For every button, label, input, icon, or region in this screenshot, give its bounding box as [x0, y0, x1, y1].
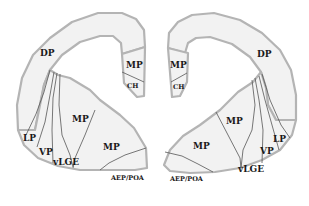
right-label-ch: CH: [173, 83, 184, 91]
left-label-mp-mid: MP: [72, 114, 89, 124]
left-label-mp-top: MP: [126, 60, 143, 70]
right-label-mp-lower: MP: [193, 141, 210, 151]
left-label-dp: DP: [40, 48, 55, 58]
brain-section-diagram: DP MP CH LP VP vLGE MP MP AEP/POA DP MP …: [0, 0, 309, 206]
left-label-vlge: vLGE: [52, 157, 79, 167]
left-label-mp-lower: MP: [103, 142, 120, 152]
right-hemisphere: DP MP CH LP VP vLGE MP MP AEP/POA: [164, 13, 296, 183]
right-label-dp: DP: [257, 49, 272, 59]
left-label-lp: LP: [23, 133, 36, 143]
right-label-aep-poa: AEP/POA: [169, 175, 204, 183]
right-label-vlge: vLGE: [237, 164, 264, 174]
left-label-vp: VP: [38, 147, 53, 157]
right-label-mp-mid: MP: [226, 116, 243, 126]
left-label-ch: CH: [127, 82, 138, 90]
left-label-aep-poa: AEP/POA: [110, 174, 145, 182]
right-label-vp: VP: [259, 146, 274, 156]
left-hemisphere: DP MP CH LP VP vLGE MP MP AEP/POA: [17, 13, 147, 182]
right-label-lp: LP: [273, 134, 286, 144]
right-label-mp-top: MP: [170, 60, 187, 70]
